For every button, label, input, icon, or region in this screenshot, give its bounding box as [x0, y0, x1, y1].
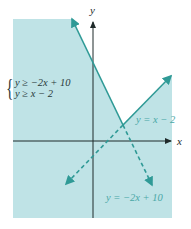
inequality-system: { y ≥ −2x + 10 y ≥ x − 2 [6, 77, 71, 99]
inequality-1: y ≥ −2x + 10 [15, 77, 71, 88]
brace-icon: { [6, 77, 11, 99]
graph: y x y = x − 2 y = −2x + 10 [0, 0, 191, 229]
y-axis-label: y [89, 4, 95, 16]
label-line1: y = x − 2 [135, 114, 176, 125]
x-axis-label: x [176, 135, 182, 147]
inequality-2: y ≥ x − 2 [15, 88, 71, 99]
label-line2: y = −2x + 10 [105, 192, 164, 203]
